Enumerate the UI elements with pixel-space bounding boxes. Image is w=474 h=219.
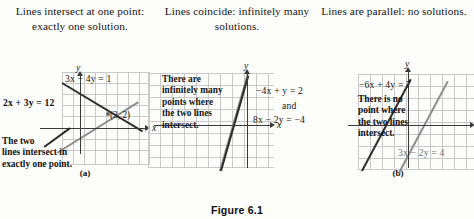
- panel-c-equation-1: −6x + 4y = 7: [359, 79, 411, 90]
- panel-b-callout: There are infinitely many points where t…: [162, 74, 223, 131]
- panel-a-equation-2: 3x − 4y = 1: [65, 73, 111, 84]
- panel-a-grid: [62, 72, 150, 165]
- panel-c-equation-2: 3x − 2y = 4: [398, 147, 444, 158]
- panel-a-callout: The two lines intersect in exactly one p…: [2, 136, 72, 170]
- panel-b-title: Lines coincide: infinitely many solution…: [158, 4, 316, 33]
- figure-caption: Figure 6.1: [0, 204, 474, 216]
- panel-a-y-axis: [80, 76, 81, 154]
- panel-c-title: Lines are parallel: no solutions.: [314, 4, 474, 19]
- panel-b-y-axis-label: y: [244, 60, 248, 71]
- panel-c-y-axis-label: y: [405, 58, 409, 69]
- panel-c-callout: There is no point where the two lines in…: [358, 94, 408, 140]
- panel-c: Lines are parallel: no solutions.: [314, 0, 474, 200]
- panel-a-x-axis: [40, 128, 145, 129]
- panel-a-y-axis-label: y: [76, 62, 80, 73]
- figure-6-1: Lines intersect at one point: exactly on…: [0, 0, 474, 219]
- panel-b-y-axis: [247, 74, 248, 168]
- panel-a-equation-1: 2x + 3y = 12: [3, 97, 55, 108]
- panel-b-equation-conjunction: and: [282, 100, 296, 111]
- panel-a: Lines intersect at one point: exactly on…: [0, 0, 160, 200]
- panel-a-title: Lines intersect at one point: exactly on…: [0, 4, 160, 33]
- panel-a-sublabel: (a): [65, 168, 105, 178]
- panel-b-equation-2: 8x − 2y = −4: [253, 114, 305, 125]
- panel-c-x-axis-arrow: [470, 122, 474, 128]
- panel-b: Lines coincide: infinitely many solution…: [158, 0, 316, 200]
- panel-b-equation-1: −4x + y = 2: [256, 85, 303, 96]
- panel-a-solution-label: (3, 2): [110, 110, 130, 120]
